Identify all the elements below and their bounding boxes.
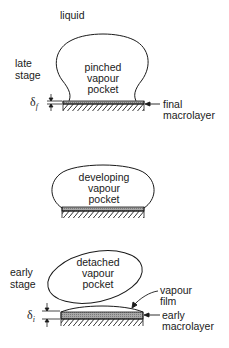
early-macrolayer xyxy=(61,312,143,319)
early-stage-label-line2: stage xyxy=(10,278,36,290)
vapour-film-outline xyxy=(61,306,143,312)
final-macrolayer-label-line2: macrolayer xyxy=(163,109,215,121)
late-stage-label-line2: stage xyxy=(15,69,41,81)
heated-wall-middle xyxy=(62,211,144,218)
early-macrolayer-label-line2: macrolayer xyxy=(162,320,214,332)
vapour-film-leader xyxy=(132,291,158,308)
vapour-film-label-line2: film xyxy=(160,295,176,307)
late-stage-label-line1: late xyxy=(15,57,32,69)
delta-f-dimension xyxy=(47,94,62,111)
heated-wall-early xyxy=(61,319,143,326)
heated-wall-late xyxy=(63,104,144,111)
macrolayer-middle xyxy=(62,207,144,211)
developing-pocket-label-line3: pocket xyxy=(68,193,140,205)
delta-f-symbol: δf xyxy=(30,96,38,113)
pinched-pocket-label-line3: pocket xyxy=(73,83,133,95)
early-macrolayer-arrow xyxy=(144,313,160,317)
final-macrolayer-arrow xyxy=(145,102,160,106)
delta-i-symbol: δi xyxy=(27,309,35,326)
detached-pocket-label-line3: pocket xyxy=(68,278,128,290)
liquid-label: liquid xyxy=(60,9,85,21)
delta-i-dimension xyxy=(42,303,60,327)
early-stage-label-line1: early xyxy=(10,266,33,278)
